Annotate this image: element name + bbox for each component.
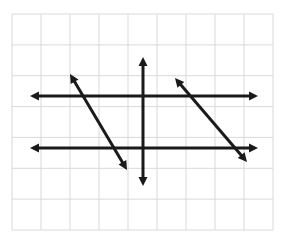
upper-horizontal-line-arrowhead-end xyxy=(249,92,258,101)
vertical-axis-arrowhead-start xyxy=(139,57,148,66)
lines-layer xyxy=(30,57,258,186)
figure-canvas xyxy=(0,0,285,244)
lower-horizontal-line-arrowhead-end xyxy=(249,144,258,153)
upper-horizontal-line-arrowhead-start xyxy=(30,92,39,101)
lower-horizontal-line-arrowhead-start xyxy=(30,144,39,153)
vertical-axis xyxy=(139,57,148,186)
vertical-axis-arrowhead-end xyxy=(139,177,148,186)
coordinate-grid-graph xyxy=(0,0,285,244)
